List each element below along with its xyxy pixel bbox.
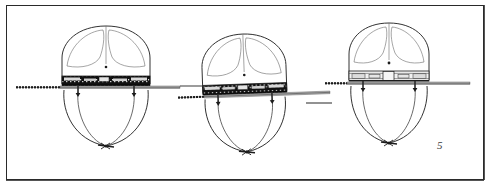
suspension-wire-left [218, 100, 247, 153]
suspension-wire-right [389, 88, 415, 143]
drawing-canvas [0, 0, 492, 189]
hull-outline-right [351, 86, 427, 143]
equipment-band-left [62, 76, 150, 86]
bottom-knot-left [98, 143, 114, 149]
figure-center [176, 31, 332, 157]
suspension-wire-right [106, 92, 134, 146]
spar-right [325, 82, 470, 85]
suspension-wire-right [245, 99, 274, 152]
figure-right [325, 23, 470, 146]
hull-outline-center [205, 97, 287, 154]
suspension-wire-left [363, 88, 389, 143]
spar-left [16, 86, 180, 89]
figure-left [16, 26, 180, 149]
equipment-band-right [349, 71, 429, 81]
figure-number-mark: 5 [437, 140, 443, 151]
drawing-page: 5 [0, 0, 492, 189]
suspension-wire-left [78, 92, 106, 146]
bottom-knot-right [381, 140, 397, 146]
envelope-center-dot [105, 66, 108, 69]
envelope-center-dot [388, 62, 391, 65]
hull-outline-left [64, 90, 148, 146]
